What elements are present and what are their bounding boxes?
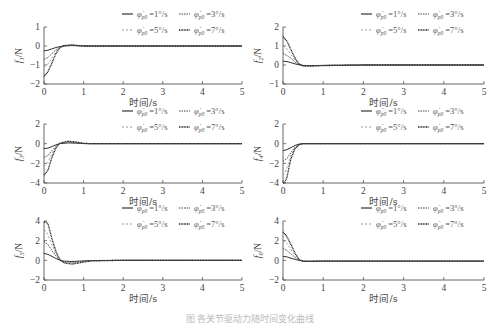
- legend: φ̇p0 =1°/sφ̇p0 =3°/sφ̇p0 =5°/sφ̇p0 =7°/s: [122, 203, 224, 230]
- legend-entry: φ̇p0 =1°/s: [376, 203, 406, 214]
- series-line-3: [44, 231, 242, 263]
- y-tick-label: 4: [35, 216, 40, 226]
- legend-entry: φ̇p0 =5°/s: [376, 25, 406, 36]
- y-tick-label: −2: [30, 79, 40, 89]
- y-tick-label: 2: [35, 119, 40, 129]
- x-tick-label: 4: [441, 283, 446, 293]
- legend-entry: φ̇p0 =3°/s: [194, 9, 224, 20]
- series-line-3: [44, 142, 242, 167]
- y-tick-label: 2: [35, 236, 40, 246]
- series-line-2: [283, 144, 484, 162]
- series-line-4: [283, 37, 484, 67]
- y-axis-label: f2/N: [253, 48, 264, 64]
- legend-entry: φ̇p0 =5°/s: [137, 25, 167, 36]
- series-line-3: [283, 241, 484, 262]
- series-line-4: [44, 141, 242, 175]
- x-tick-label: 2: [361, 87, 366, 97]
- legend-entry: φ̇p0 =7°/s: [194, 25, 224, 36]
- y-tick-label: 2: [274, 22, 279, 32]
- x-tick-label: 3: [160, 283, 165, 293]
- x-tick-label: 0: [42, 283, 47, 293]
- x-tick-label: 2: [121, 283, 126, 293]
- y-tick-label: −4: [269, 178, 279, 188]
- y-tick-label: 1: [274, 41, 279, 51]
- legend-entry: φ̇p0 =1°/s: [137, 203, 167, 214]
- y-tick-label: −4: [30, 178, 40, 188]
- subplot-2: 012345−1012时间/sf2/Nφ̇p0 =1°/sφ̇p0 =3°/sφ…: [253, 9, 487, 108]
- series-line-1: [283, 144, 484, 151]
- legend-entry: φ̇p0 =1°/s: [137, 9, 167, 20]
- legend: φ̇p0 =1°/sφ̇p0 =3°/sφ̇p0 =5°/sφ̇p0 =7°/s: [361, 203, 463, 230]
- y-tick-label: 4: [274, 216, 279, 226]
- legend-entry: φ̇p0 =7°/s: [433, 25, 463, 36]
- y-tick-label: −2: [269, 159, 279, 169]
- y-axis-label: f3/N: [14, 146, 25, 162]
- legend-entry: φ̇p0 =7°/s: [433, 219, 463, 230]
- x-tick-label: 4: [200, 283, 205, 293]
- y-tick-label: 0: [35, 139, 40, 149]
- x-tick-label: 2: [121, 186, 126, 196]
- subplot-5: 012345−2024时间/sf5/Nφ̇p0 =1°/sφ̇p0 =3°/sφ…: [14, 203, 245, 304]
- legend-entry: φ̇p0 =3°/s: [433, 203, 463, 214]
- series-line-4: [283, 232, 484, 261]
- legend-entry: φ̇p0 =1°/s: [137, 106, 167, 117]
- y-tick-label: −2: [269, 275, 279, 285]
- x-tick-label: 3: [401, 283, 406, 293]
- legend-entry: φ̇p0 =1°/s: [376, 106, 406, 117]
- y-tick-label: −2: [30, 159, 40, 169]
- y-tick-label: 0: [35, 256, 40, 266]
- x-tick-label: 0: [281, 283, 286, 293]
- x-tick-label: 5: [240, 87, 245, 97]
- x-tick-label: 3: [160, 186, 165, 196]
- legend-entry: φ̇p0 =5°/s: [376, 219, 406, 230]
- x-tick-label: 5: [482, 283, 487, 293]
- x-tick-label: 5: [240, 186, 245, 196]
- legend: φ̇p0 =1°/sφ̇p0 =3°/sφ̇p0 =5°/sφ̇p0 =7°/s: [361, 106, 463, 133]
- legend-entry: φ̇p0 =7°/s: [194, 122, 224, 133]
- subplot-4: 012345−4−202时间/sf4/Nφ̇p0 =1°/sφ̇p0 =3°/s…: [253, 106, 487, 207]
- y-tick-label: −1: [269, 79, 279, 89]
- legend: φ̇p0 =1°/sφ̇p0 =3°/sφ̇p0 =5°/sφ̇p0 =7°/s: [361, 9, 463, 36]
- series-line-2: [283, 249, 484, 262]
- legend-entry: φ̇p0 =3°/s: [194, 106, 224, 117]
- y-tick-label: 0: [274, 60, 279, 70]
- x-tick-label: 5: [240, 283, 245, 293]
- legend-entry: φ̇p0 =5°/s: [137, 122, 167, 133]
- legend-entry: φ̇p0 =3°/s: [433, 9, 463, 20]
- x-tick-label: 1: [81, 283, 86, 293]
- y-tick-label: −2: [30, 275, 40, 285]
- subplot-3: 012345−4−202时间/sf3/Nφ̇p0 =1°/sφ̇p0 =3°/s…: [14, 106, 245, 207]
- x-tick-label: 0: [42, 87, 47, 97]
- series-line-2: [283, 54, 484, 66]
- series-line-4: [44, 45, 242, 77]
- x-tick-label: 4: [441, 87, 446, 97]
- x-tick-label: 5: [482, 87, 487, 97]
- x-tick-label: 4: [200, 186, 205, 196]
- x-tick-label: 3: [401, 186, 406, 196]
- x-tick-label: 2: [121, 87, 126, 97]
- x-axis-label: 时间/s: [369, 293, 397, 304]
- x-tick-label: 1: [321, 283, 326, 293]
- series-line-4: [283, 144, 484, 183]
- x-tick-label: 2: [361, 283, 366, 293]
- legend-entry: φ̇p0 =1°/s: [376, 9, 406, 20]
- x-tick-label: 1: [321, 186, 326, 196]
- x-tick-label: 0: [281, 87, 286, 97]
- series-line-3: [283, 144, 484, 175]
- x-tick-label: 2: [361, 186, 366, 196]
- y-tick-label: 2: [274, 236, 279, 246]
- x-tick-label: 5: [482, 186, 487, 196]
- y-tick-label: 1: [35, 22, 40, 32]
- y-axis-label: f4/N: [253, 146, 264, 162]
- y-tick-label: 2: [274, 119, 279, 129]
- series-line-3: [283, 46, 484, 66]
- x-tick-label: 0: [281, 186, 286, 196]
- legend: φ̇p0 =1°/sφ̇p0 =3°/sφ̇p0 =5°/sφ̇p0 =7°/s: [122, 9, 224, 36]
- legend: φ̇p0 =1°/sφ̇p0 =3°/sφ̇p0 =5°/sφ̇p0 =7°/s: [122, 106, 224, 133]
- y-axis-label: f1/N: [14, 48, 25, 64]
- x-tick-label: 0: [42, 186, 47, 196]
- series-line-3: [44, 45, 242, 67]
- figure-caption: 图 各关节驱动力随时间变化曲线: [0, 312, 500, 325]
- x-tick-label: 1: [81, 186, 86, 196]
- x-tick-label: 1: [81, 87, 86, 97]
